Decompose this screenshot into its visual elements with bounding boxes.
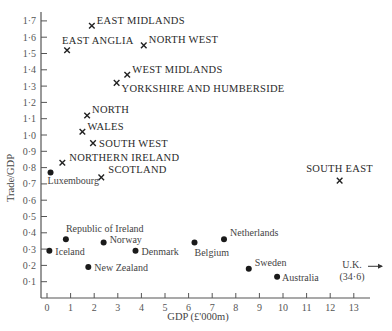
uk-value: (34·6) [340, 271, 365, 283]
y-tick-label: 0·5 [23, 211, 36, 222]
point-label: Sweden [255, 257, 287, 268]
x-tick-label: 9 [257, 302, 262, 313]
point-netherlands: Netherlands [221, 227, 278, 242]
x-tick-label: 13 [349, 302, 359, 313]
dot-marker-icon [221, 236, 227, 242]
cross-marker-icon [89, 23, 95, 29]
y-tick-label: 1·4 [23, 64, 36, 75]
point-label: EAST MIDLANDS [97, 15, 185, 26]
scatter-chart: 0·10·20·30·40·50·60·70·80·91·01·11·21·31… [0, 0, 392, 331]
cross-marker-icon [141, 43, 147, 49]
arrowhead-icon [378, 264, 383, 269]
point-north: NORTH [84, 104, 129, 118]
x-tick-label: 10 [278, 302, 288, 313]
point-label: Luxembourg [48, 175, 99, 186]
cross-marker-icon [337, 178, 343, 184]
y-tick-label: 1·7 [23, 15, 36, 26]
point-yorkshire-and-humberside: YORKSHIRE AND HUMBERSIDE [114, 80, 285, 94]
point-label: NORTH WEST [149, 34, 219, 45]
y-tick-label: 0·8 [23, 162, 36, 173]
y-tick-label: 0·6 [23, 195, 36, 206]
cross-marker-icon [90, 140, 96, 146]
dot-marker-icon [101, 240, 107, 246]
y-tick-label: 0·9 [23, 146, 36, 157]
dot-marker-icon [46, 248, 52, 254]
point-scotland: SCOTLAND [98, 164, 166, 180]
cross-marker-icon [84, 113, 90, 119]
point-label: Denmark [142, 246, 179, 257]
x-tick-label: 12 [325, 302, 335, 313]
point-label: Australia [282, 272, 319, 283]
annotations: U.K.(34·6) [340, 259, 384, 283]
point-new-zealand: New Zealand [85, 262, 148, 273]
point-label: SOUTH EAST [306, 163, 373, 174]
dot-marker-icon [192, 240, 198, 246]
dot-marker-icon [246, 266, 252, 272]
uk-label: U.K. [342, 259, 361, 270]
x-tick-label: 3 [115, 302, 120, 313]
y-tick-label: 1·1 [23, 113, 36, 124]
y-tick-label: 1·5 [23, 48, 36, 59]
point-wales: WALES [80, 121, 124, 135]
point-label: YORKSHIRE AND HUMBERSIDE [122, 83, 285, 94]
cross-marker-icon [98, 175, 104, 181]
x-tick-label: 2 [92, 302, 97, 313]
point-label: NORTH [92, 104, 129, 115]
dot-marker-icon [133, 248, 139, 254]
point-label: Norway [110, 234, 142, 245]
cross-marker-icon [124, 72, 130, 78]
point-label: EAST ANGLIA [62, 35, 134, 46]
x-tick-label: 11 [302, 302, 312, 313]
point-australia: Australia [274, 272, 319, 283]
cross-marker-icon [64, 47, 70, 53]
point-label: WALES [87, 121, 124, 132]
dot-marker-icon [274, 274, 280, 280]
dot-marker-icon [63, 236, 69, 242]
point-east-midlands: EAST MIDLANDS [89, 15, 185, 29]
point-label: New Zealand [94, 262, 148, 273]
point-south-west: SOUTH WEST [90, 138, 168, 149]
point-label: SCOTLAND [108, 164, 167, 175]
uk-offscale-annotation: U.K.(34·6) [340, 259, 384, 283]
x-axis-title: GDP (£'000m) [167, 311, 229, 323]
y-tick-label: 1·6 [23, 32, 36, 43]
point-sweden: Sweden [246, 257, 287, 272]
point-west-midlands: WEST MIDLANDS [124, 64, 222, 78]
data-points: EAST MIDLANDSEAST ANGLIANORTH WESTWEST M… [46, 15, 373, 283]
point-label: SOUTH WEST [99, 138, 168, 149]
chart-canvas: 0·10·20·30·40·50·60·70·80·91·01·11·21·31… [0, 0, 392, 331]
y-tick-label: 0·2 [23, 260, 36, 271]
point-north-west: NORTH WEST [141, 34, 219, 48]
y-tick-label: 0·3 [23, 244, 36, 255]
point-iceland: Iceland [46, 246, 84, 257]
y-tick-label: 0·4 [23, 227, 36, 238]
point-label: Iceland [55, 246, 84, 257]
point-label: Belgium [195, 247, 230, 258]
point-luxembourg: Luxembourg [48, 169, 99, 186]
cross-marker-icon [60, 160, 66, 166]
y-tick-label: 1·2 [23, 97, 36, 108]
y-tick-label: 0·7 [23, 178, 36, 189]
point-east-anglia: EAST ANGLIA [62, 35, 134, 53]
y-tick-label: 0·1 [23, 276, 36, 287]
point-label: WEST MIDLANDS [132, 64, 222, 75]
cross-marker-icon [114, 80, 120, 86]
point-norway: Norway [101, 234, 142, 246]
point-label: NORTHERN IRELAND [69, 152, 179, 163]
x-tick-label: 1 [68, 302, 73, 313]
x-tick-label: 0 [45, 302, 50, 313]
point-label: Netherlands [230, 227, 278, 238]
x-tick-label: 8 [233, 302, 238, 313]
x-tick-label: 4 [139, 302, 144, 313]
y-tick-label: 1·0 [23, 130, 36, 141]
y-tick-label: 1·3 [23, 81, 36, 92]
y-axis-title: Trade/GDP [5, 154, 16, 202]
point-south-east: SOUTH EAST [306, 163, 373, 184]
point-denmark: Denmark [133, 246, 179, 257]
dot-marker-icon [85, 264, 91, 270]
cross-marker-icon [80, 129, 86, 135]
